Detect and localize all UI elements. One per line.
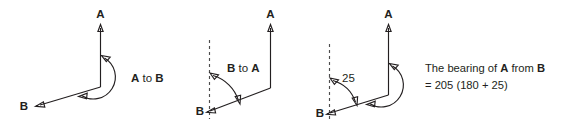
panel-3-arrowhead-b xyxy=(327,110,336,115)
panel-3-label-b: B xyxy=(316,107,324,119)
panel-3-ray-b-to-corner xyxy=(330,95,389,113)
panel-2-arc-label: B to A xyxy=(227,62,260,74)
panel-3-label-a: A xyxy=(384,8,392,20)
panel-1-group: A B A to B xyxy=(20,8,164,112)
bearings-diagram-svg: A B A to B A B xyxy=(0,0,577,138)
panel-1-label-a: A xyxy=(96,8,104,20)
panel-2-arc-label-part-1: to xyxy=(235,62,251,74)
panel-3-angle-label: 25 xyxy=(342,72,355,84)
bearings-figure: A B A to B A B xyxy=(0,0,577,138)
panel-1-arc-label-part-2: B xyxy=(155,72,163,84)
bearing-note: The bearing of A from B = 205 (180 + 25) xyxy=(425,62,545,91)
panel-1-arc-label-part-1: to xyxy=(139,72,155,84)
bearing-note-line-2: = 205 (180 + 25) xyxy=(425,79,508,91)
panel-2-label-b: B xyxy=(196,105,204,117)
bearing-note-line-1-part-0: The bearing of xyxy=(425,62,500,74)
panel-1-arc-label: A to B xyxy=(131,72,164,84)
bearing-note-line-1-part-2: from xyxy=(508,62,537,74)
panel-2-arrowhead-b xyxy=(207,108,216,113)
panel-2-arc-label-part-0: B xyxy=(227,62,235,74)
bearing-note-line-1: The bearing of A from B xyxy=(425,62,545,74)
panel-3-group: A B 25 xyxy=(316,8,404,122)
panel-2-arc-label-part-2: A xyxy=(251,62,259,74)
panel-2-group: A B B to A xyxy=(196,8,275,119)
panel-1-ray-to-b xyxy=(40,87,101,105)
panel-2-label-a: A xyxy=(266,8,274,20)
panel-1-arc-label-part-0: A xyxy=(131,72,139,84)
bearing-note-line-1-part-3: B xyxy=(537,62,545,74)
bearing-note-line-1-part-1: A xyxy=(500,62,508,74)
panel-1-label-b: B xyxy=(20,100,28,112)
